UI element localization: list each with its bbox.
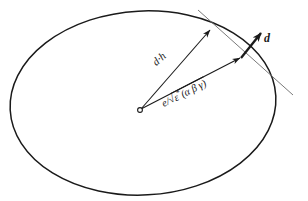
ellipse-vector-figure: d·h e/√ε*(α β γ) d <box>0 0 308 201</box>
label-normal-vector-d: d <box>264 32 270 44</box>
ellipse-outline <box>5 4 280 201</box>
origin-marker-icon <box>138 108 143 113</box>
figure-canvas <box>0 0 308 201</box>
